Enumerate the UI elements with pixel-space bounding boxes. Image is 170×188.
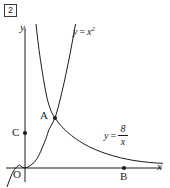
- point-c-marker: [23, 131, 27, 135]
- hyperbola-equation-label: y = 8 x: [104, 124, 128, 147]
- origin-label: O: [13, 169, 21, 180]
- hyperbola-lhs: y: [104, 131, 108, 141]
- parabola-equals: =: [77, 26, 87, 37]
- hyperbola-fraction: 8 x: [118, 124, 128, 147]
- hyperbola-equals: =: [110, 131, 116, 141]
- point-c-label: C: [12, 127, 19, 138]
- point-a-marker: [53, 116, 57, 120]
- point-b-label: B: [120, 171, 127, 182]
- hyperbola-numerator: 8: [120, 124, 127, 135]
- parabola-equation-label: y=x2: [73, 26, 95, 37]
- point-a-label: A: [40, 110, 48, 121]
- math-figure: 2 y x A B C O y=x2 y = 8 x: [0, 0, 170, 188]
- parabola-exponent: 2: [92, 25, 96, 33]
- parabola-curve: [7, 24, 76, 187]
- x-axis-label: x: [157, 161, 162, 172]
- hyperbola-denominator: x: [120, 136, 126, 147]
- y-axis-label: y: [20, 22, 25, 33]
- hyperbola-curve: [36, 24, 163, 163]
